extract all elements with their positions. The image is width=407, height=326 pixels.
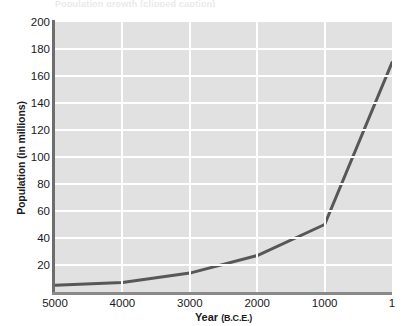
x-tick-label: 3000 [177, 297, 203, 310]
horizontal-gridline [55, 48, 392, 50]
x-axis-title-unit: (B.C.E.) [221, 313, 252, 323]
x-axis-title: Year (B.C.E.) [55, 311, 392, 323]
horizontal-gridline [55, 156, 392, 158]
x-tick-label: 1000 [312, 297, 338, 310]
y-tick-label: 60 [12, 206, 50, 217]
clipped-caption-remnant: Population growth (clipped caption) [55, 0, 355, 7]
x-tick-label: 5000 [42, 297, 68, 310]
x-tick-label: 4000 [110, 297, 136, 310]
y-tick-label: 160 [12, 71, 50, 82]
y-tick-label: 180 [12, 44, 50, 55]
vertical-gridline [324, 22, 326, 292]
x-tick-label: 2000 [244, 297, 270, 310]
horizontal-gridline [55, 264, 392, 266]
vertical-gridline [189, 22, 191, 292]
horizontal-gridline [55, 210, 392, 212]
horizontal-gridline [55, 237, 392, 239]
y-tick-label: 100 [12, 152, 50, 163]
y-tick-label: 20 [12, 260, 50, 271]
x-axis-line [52, 292, 392, 295]
x-tick-label: 1 [389, 297, 395, 310]
y-tick-label: 140 [12, 98, 50, 109]
horizontal-gridline [55, 129, 392, 131]
vertical-gridline [121, 22, 123, 292]
horizontal-gridline [55, 183, 392, 185]
y-tick-label: 200 [12, 17, 50, 28]
y-axis-tick-labels: 20018016014012010080604020 [12, 14, 50, 300]
y-tick-label: 40 [12, 233, 50, 244]
vertical-gridline [256, 22, 258, 292]
chart-figure: Population growth (clipped caption) Popu… [0, 0, 407, 326]
x-axis-title-main: Year [195, 311, 218, 323]
y-tick-label: 120 [12, 125, 50, 136]
y-tick-label: 80 [12, 179, 50, 190]
horizontal-gridline [55, 102, 392, 104]
plot-area [55, 22, 392, 292]
horizontal-gridline [55, 75, 392, 77]
